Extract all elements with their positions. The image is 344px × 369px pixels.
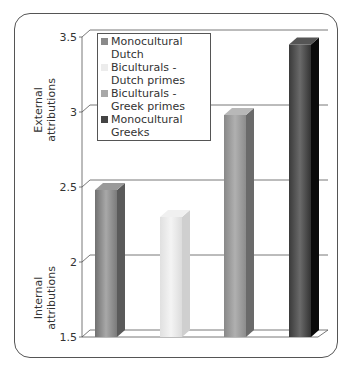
svg-text:attributions: attributions xyxy=(45,78,58,142)
y-tick-label: 3.5 xyxy=(60,31,78,44)
y-tick-label: 1.5 xyxy=(60,331,78,344)
legend-swatch xyxy=(101,64,108,71)
y-axis-label: Internalattributions xyxy=(32,266,58,330)
bar xyxy=(95,183,125,337)
legend-item: Biculturals - Dutch primes xyxy=(101,61,207,87)
bar xyxy=(224,108,254,337)
legend: Monocultural Dutch Biculturals - Dutch p… xyxy=(97,33,211,141)
svg-text:Internal: Internal xyxy=(32,277,45,319)
svg-text:External: External xyxy=(32,87,45,133)
legend-item: Biculturals - Greek primes xyxy=(101,87,207,113)
legend-item: Monocultural Greeks xyxy=(101,113,207,139)
bar xyxy=(289,38,319,338)
y-tick-label: 2.5 xyxy=(60,181,78,194)
legend-swatch xyxy=(101,90,108,97)
y-tick-label: 3 xyxy=(70,106,77,119)
legend-swatch xyxy=(101,116,108,123)
y-axis-label: Externalattributions xyxy=(32,78,58,142)
y-axis: 1.522.533.5ExternalattributionsInternala… xyxy=(32,31,83,344)
legend-swatch xyxy=(101,38,108,45)
y-tick-label: 2 xyxy=(70,256,77,269)
legend-item: Monocultural Dutch xyxy=(101,35,207,61)
bar xyxy=(160,210,190,337)
svg-text:attributions: attributions xyxy=(45,266,58,330)
